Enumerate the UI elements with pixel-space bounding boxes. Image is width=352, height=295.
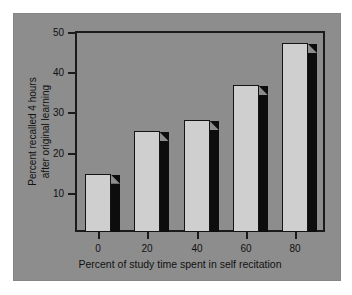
x-axis-tick (197, 232, 199, 239)
bar-shadow-face (259, 86, 268, 232)
bar-front-face (184, 120, 210, 232)
x-axis-title: Percent of study time spent in self reci… (40, 258, 320, 270)
bar (85, 174, 120, 232)
x-axis-tick (98, 232, 100, 239)
bar-shadow-face (308, 44, 317, 232)
x-axis-tick-label: 40 (182, 243, 212, 254)
bar-front-face (233, 85, 259, 232)
y-axis-title-line-1: Percent recalled 4 hours (26, 77, 39, 185)
x-axis-tick (147, 232, 149, 239)
x-axis-tick-label: 0 (83, 243, 113, 254)
x-axis-tick-label: 60 (231, 243, 261, 254)
y-axis-title-line-2: after original learning (39, 85, 52, 178)
y-axis-title: Percent recalled 4 hours after original … (18, 31, 60, 232)
y-axis-tick (68, 193, 76, 195)
bar (282, 43, 317, 232)
y-axis-tick (68, 72, 76, 74)
bar (184, 120, 219, 232)
x-axis-tick (295, 232, 297, 239)
bar-shadow-face (210, 121, 219, 232)
bar-front-face (85, 174, 111, 232)
bar-shadow-face (111, 175, 120, 232)
y-axis-tick (68, 153, 76, 155)
bar (134, 131, 169, 232)
x-axis-tick-label: 20 (132, 243, 162, 254)
y-axis-tick (68, 112, 76, 114)
bar-front-face (134, 131, 160, 232)
x-axis-tick-label: 80 (280, 243, 310, 254)
y-axis-tick (68, 32, 76, 34)
chart-figure: 1020304050020406080 Percent recalled 4 h… (0, 0, 352, 295)
x-axis-tick (246, 232, 248, 239)
bar-front-face (282, 43, 308, 232)
bar-shadow-face (160, 132, 169, 232)
bar (233, 85, 268, 232)
